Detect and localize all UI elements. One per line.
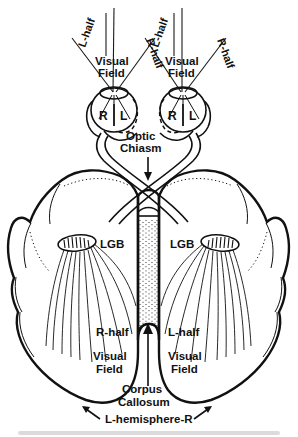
- right-sulcus-2: [266, 223, 273, 268]
- corpus-callosum-label-line2: Callosum: [118, 396, 170, 408]
- right-lgb-laminae: [208, 237, 233, 248]
- right-gyri-stipple: [167, 179, 233, 187]
- corpus-callosum-band: [138, 190, 159, 340]
- right-eye-visual-label: Visual: [165, 55, 199, 67]
- right-hemisphere-visual-label: Visual: [168, 350, 202, 362]
- right-lgb-group: LGB: [161, 233, 251, 362]
- right-lgb-label: LGB: [170, 238, 194, 250]
- left-sulcus-2: [24, 223, 31, 268]
- hemisphere-label-arrow-left: [82, 406, 100, 419]
- right-eye-inner-half-label: R-half: [215, 37, 237, 71]
- left-gyri-stipple: [64, 179, 130, 187]
- right-eye-nasal-label: R: [168, 109, 177, 123]
- right-eyeball: R L: [160, 87, 211, 137]
- left-optic-radiation: [46, 244, 136, 362]
- left-eye-outer-half-label: L-half: [76, 16, 98, 49]
- left-eye-ray-center: [113, 8, 114, 92]
- left-hemisphere-field-label: Field: [96, 363, 123, 375]
- optic-chiasm-arrow: [144, 157, 152, 181]
- corpus-callosum-arrow: [143, 323, 153, 386]
- right-hemisphere-half-label: L-half: [168, 326, 199, 338]
- right-eye-field-label: Field: [168, 67, 195, 79]
- left-lgb-label: LGB: [100, 238, 124, 250]
- right-optic-radiation: [161, 244, 251, 362]
- left-eye-nasal-label: R: [99, 109, 108, 123]
- right-gyri-stipple-2: [247, 232, 267, 272]
- visual-pathway-figure: L-half R-half Visual Field L-half R-half…: [0, 0, 298, 437]
- corpus-callosum-label-line1: Corpus: [122, 383, 162, 395]
- hemisphere-label: L-hemisphere-R: [105, 413, 193, 425]
- right-eye-outer-half-label: L-half: [149, 16, 171, 49]
- callosum-outline: [138, 190, 159, 340]
- callosum-stipple: [140, 220, 157, 326]
- optic-chiasm-label-line1: Optic: [126, 130, 156, 142]
- diagram-canvas: L-half R-half Visual Field L-half R-half…: [0, 0, 298, 437]
- left-lgb-group: LGB: [46, 233, 136, 362]
- left-eye-temporal-label: L: [120, 109, 127, 123]
- right-eye-temporal-label: L: [189, 109, 196, 123]
- left-gyri-stipple-2: [30, 232, 50, 272]
- optic-chiasm-label-line2: Chiasm: [120, 142, 162, 154]
- callosum-top-arch: [138, 208, 159, 213]
- right-hemisphere-field-label: Field: [171, 363, 198, 375]
- left-hemisphere-half-label: R-half: [96, 326, 129, 338]
- hemisphere-label-arrow-right: [194, 406, 212, 419]
- scan-smudge-artifact: [18, 431, 280, 435]
- left-eye-field-label: Field: [98, 67, 125, 79]
- left-lgb-laminae: [64, 237, 89, 248]
- left-eye-visual-label: Visual: [95, 55, 129, 67]
- left-hemisphere-visual-label: Visual: [93, 350, 127, 362]
